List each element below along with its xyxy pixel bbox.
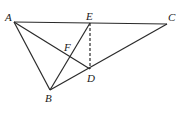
- label-C: C: [168, 11, 176, 23]
- label-E: E: [85, 10, 93, 22]
- segment-AD: [14, 22, 90, 69]
- label-D: D: [86, 72, 95, 84]
- geometry-diagram: A E C F D B: [0, 0, 183, 113]
- label-B: B: [45, 92, 52, 104]
- label-A: A: [4, 11, 12, 23]
- label-F: F: [63, 41, 71, 53]
- segment-BC: [50, 24, 167, 90]
- segment-BE: [50, 23, 90, 90]
- segment-AB: [14, 22, 50, 90]
